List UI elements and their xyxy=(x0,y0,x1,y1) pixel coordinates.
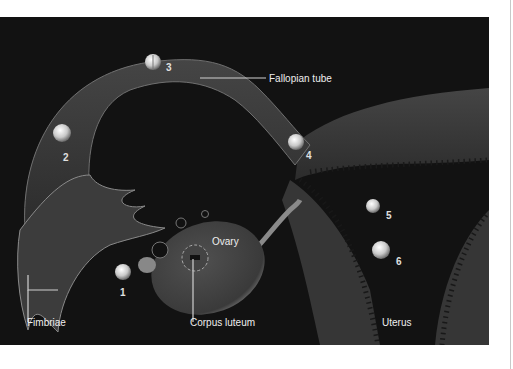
label-fimbriae: Fimbriae xyxy=(27,317,66,328)
illustration-panel xyxy=(0,17,489,345)
uterus-right-wall xyxy=(435,210,489,345)
stage-1-oocyte xyxy=(115,264,131,280)
label-ovary: Ovary xyxy=(212,236,239,247)
page-edge-rule xyxy=(510,0,511,369)
label-fallopian-tube: Fallopian tube xyxy=(269,73,332,84)
anatomy-illustration xyxy=(0,17,489,345)
stage-number-4: 4 xyxy=(306,150,312,161)
stage-6-implantation xyxy=(372,241,390,259)
label-uterus: Uterus xyxy=(382,317,411,328)
ovary-shape xyxy=(138,206,278,330)
stage-number-6: 6 xyxy=(396,256,402,267)
stage-number-3: 3 xyxy=(166,62,172,73)
stage-2-zygote xyxy=(53,124,71,142)
uterus-fundus xyxy=(295,88,489,180)
stage-number-1: 1 xyxy=(120,287,126,298)
label-corpus-luteum: Corpus luteum xyxy=(190,317,255,328)
stage-5-blastocyst xyxy=(366,199,380,213)
stage-number-5: 5 xyxy=(386,210,392,221)
stage-4-morula xyxy=(288,134,304,150)
stage-number-2: 2 xyxy=(63,152,69,163)
